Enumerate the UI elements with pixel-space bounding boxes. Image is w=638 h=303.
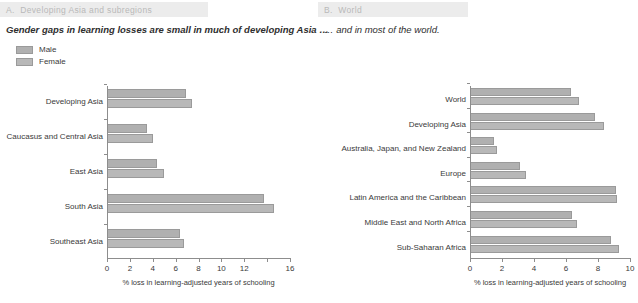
bar-male — [470, 113, 595, 121]
bar-group: Middle East and North Africa — [318, 211, 636, 228]
bar-female — [470, 146, 497, 154]
panel-a-header-label: A. Developing Asia and subregions — [0, 5, 152, 15]
x-tick — [244, 259, 245, 262]
plot-area-b: WorldDeveloping AsiaAustralia, Japan, an… — [318, 86, 636, 268]
bar-male — [470, 211, 572, 219]
bar-group: Latin America and the Caribbean — [318, 186, 636, 203]
x-tick-label: 10 — [210, 264, 232, 273]
x-tick-label: 6 — [555, 264, 577, 273]
bar-group: Europe — [318, 162, 636, 179]
legend-label-male: Male — [39, 45, 56, 54]
x-tick — [130, 259, 131, 262]
category-label: Developing Asia — [318, 120, 466, 130]
bar-male — [470, 186, 616, 194]
category-label: Latin America and the Caribbean — [318, 193, 466, 203]
x-axis-title: % loss in learning-adjusted years of sch… — [470, 278, 630, 287]
x-tick — [630, 259, 631, 262]
y-tick — [467, 181, 470, 182]
bar-female — [470, 245, 619, 253]
bar-female — [107, 169, 164, 178]
bar-female — [470, 122, 604, 130]
x-tick — [107, 259, 108, 262]
category-label: South Asia — [0, 202, 103, 212]
x-tick — [221, 259, 222, 262]
x-tick — [176, 259, 177, 262]
x-axis-title: % loss in learning-adjusted years of sch… — [107, 278, 290, 287]
y-tick — [104, 119, 107, 120]
bar-group: South Asia — [0, 194, 300, 213]
panel-a-subtitle: Gender gaps in learning losses are small… — [6, 24, 329, 35]
bar-male — [107, 194, 264, 203]
y-tick — [104, 189, 107, 190]
x-tick-label: 4 — [142, 264, 164, 273]
bar-group: Caucasus and Central Asia — [0, 124, 300, 143]
category-label: Caucasus and Central Asia — [0, 132, 103, 142]
x-tick-label: 2 — [119, 264, 141, 273]
bar-female — [107, 134, 153, 143]
bar-female — [107, 239, 184, 248]
bar-female — [470, 195, 617, 203]
x-tick-label: 8 — [587, 264, 609, 273]
bar-male — [107, 124, 147, 133]
x-tick-label: 6 — [165, 264, 187, 273]
y-tick — [467, 157, 470, 158]
bar-female — [470, 97, 579, 105]
bar-group: Australia, Japan, and New Zealand — [318, 137, 636, 154]
x-tick-label: 8 — [188, 264, 210, 273]
x-tick — [470, 259, 471, 262]
bar-female — [470, 171, 526, 179]
panel-b: B. World … and in most of the world. Wor… — [318, 0, 638, 303]
x-tick — [199, 259, 200, 262]
category-label: Australia, Japan, and New Zealand — [318, 144, 466, 154]
y-tick — [104, 154, 107, 155]
category-label: World — [318, 95, 466, 105]
x-tick — [566, 259, 567, 262]
x-tick-label: 4 — [523, 264, 545, 273]
bar-group: World — [318, 88, 636, 105]
bar-group: Developing Asia — [318, 113, 636, 130]
x-tick — [290, 259, 291, 262]
panel-a-title: Developing Asia and subregions — [20, 5, 152, 15]
x-tick — [502, 259, 503, 262]
legend-label-female: Female — [39, 57, 66, 66]
bar-male — [107, 229, 180, 238]
figure-gender-gaps-learning-losses: A. Developing Asia and subregions Gender… — [0, 0, 638, 303]
y-tick — [467, 231, 470, 232]
bar-group: Sub-Saharan Africa — [318, 236, 636, 253]
category-label: East Asia — [0, 167, 103, 177]
bar-male — [107, 159, 157, 168]
bar-group: Southeast Asia — [0, 229, 300, 248]
panel-a-header: A. Developing Asia and subregions — [0, 2, 208, 17]
y-tick — [104, 84, 107, 85]
y-tick — [467, 206, 470, 207]
bar-group: East Asia — [0, 159, 300, 178]
legend: Male Female — [16, 44, 66, 68]
y-axis-line — [107, 86, 108, 258]
category-label: Europe — [318, 169, 466, 179]
legend-item-female: Female — [16, 56, 66, 67]
x-tick-label: 10 — [619, 264, 638, 273]
category-label: Sub-Saharan Africa — [318, 243, 466, 253]
category-label: Developing Asia — [0, 97, 103, 107]
legend-swatch-male — [16, 46, 33, 54]
x-axis-line — [470, 258, 631, 259]
bar-male — [107, 89, 186, 98]
bar-male — [470, 88, 571, 96]
panel-b-id: B. — [324, 5, 333, 15]
x-tick — [534, 259, 535, 262]
bar-male — [470, 137, 494, 145]
y-tick — [104, 224, 107, 225]
panel-a-id: A. — [6, 5, 15, 15]
bar-female — [107, 204, 274, 213]
panel-b-header: B. World — [318, 2, 468, 17]
bar-female — [470, 220, 577, 228]
legend-swatch-female — [16, 58, 33, 66]
panel-b-subtitle: … and in most of the world. — [324, 24, 440, 35]
y-tick — [467, 108, 470, 109]
panel-a: A. Developing Asia and subregions Gender… — [0, 0, 318, 303]
x-tick-label: 0 — [96, 264, 118, 273]
panel-b-header-label: B. World — [318, 5, 362, 15]
x-tick-label: 16 — [279, 264, 301, 273]
bar-group: Developing Asia — [0, 89, 300, 108]
y-axis-line — [470, 86, 471, 258]
